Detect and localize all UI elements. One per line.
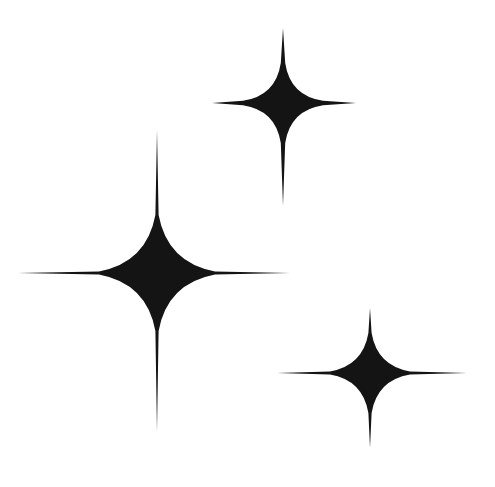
sparkles-icon (0, 0, 495, 487)
background (0, 0, 495, 487)
